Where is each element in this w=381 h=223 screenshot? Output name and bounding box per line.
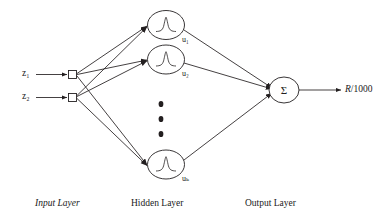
hidden-label-u1: u₁ (182, 36, 189, 44)
ellipsis-dot-1 (159, 101, 164, 107)
caption-input-layer: Input Layer (35, 199, 80, 209)
edge-z2-u1 (77, 27, 147, 96)
hidden-node-u1 (148, 11, 185, 40)
ellipsis-dot-3 (159, 131, 164, 137)
weight-edges-input1 (77, 26, 147, 165)
hidden-node-uk (148, 150, 185, 179)
edge-z2-uk (77, 99, 147, 166)
input-arrow-group (36, 75, 67, 98)
output-label: R/1000 (345, 85, 372, 95)
output-edges (184, 30, 272, 160)
hidden-label-u2: u₂ (182, 70, 189, 78)
input-node-z2 (69, 94, 77, 102)
edge-z1-u2 (77, 60, 147, 75)
hidden-node-u2 (148, 45, 185, 74)
weight-edges-input2 (77, 27, 147, 166)
input-node-z1 (69, 71, 77, 79)
caption-hidden-layer: Hidden Layer (131, 199, 184, 209)
edge-z1-uk (77, 76, 147, 165)
gaussian-glyph-group (156, 17, 176, 171)
hidden-label-uk: uₖ (182, 175, 189, 183)
ellipsis-dot-2 (159, 116, 164, 122)
edge-u1-sum (184, 30, 272, 88)
caption-output-layer: Output Layer (245, 199, 296, 209)
network-graphic: Σ (0, 0, 381, 223)
output-label-divisor: /1000 (351, 84, 373, 94)
sigma-symbol: Σ (281, 84, 287, 96)
neural-network-diagram: Σ z₁ z₂ u₁ u₂ uₖ R/1000 Input Layer Hidd… (0, 0, 381, 223)
edge-uk-sum (184, 93, 272, 160)
input-label-z2: z₂ (22, 92, 30, 102)
input-label-z1: z₁ (22, 69, 30, 79)
vertical-ellipsis (159, 101, 164, 137)
edge-u2-sum (184, 63, 272, 89)
